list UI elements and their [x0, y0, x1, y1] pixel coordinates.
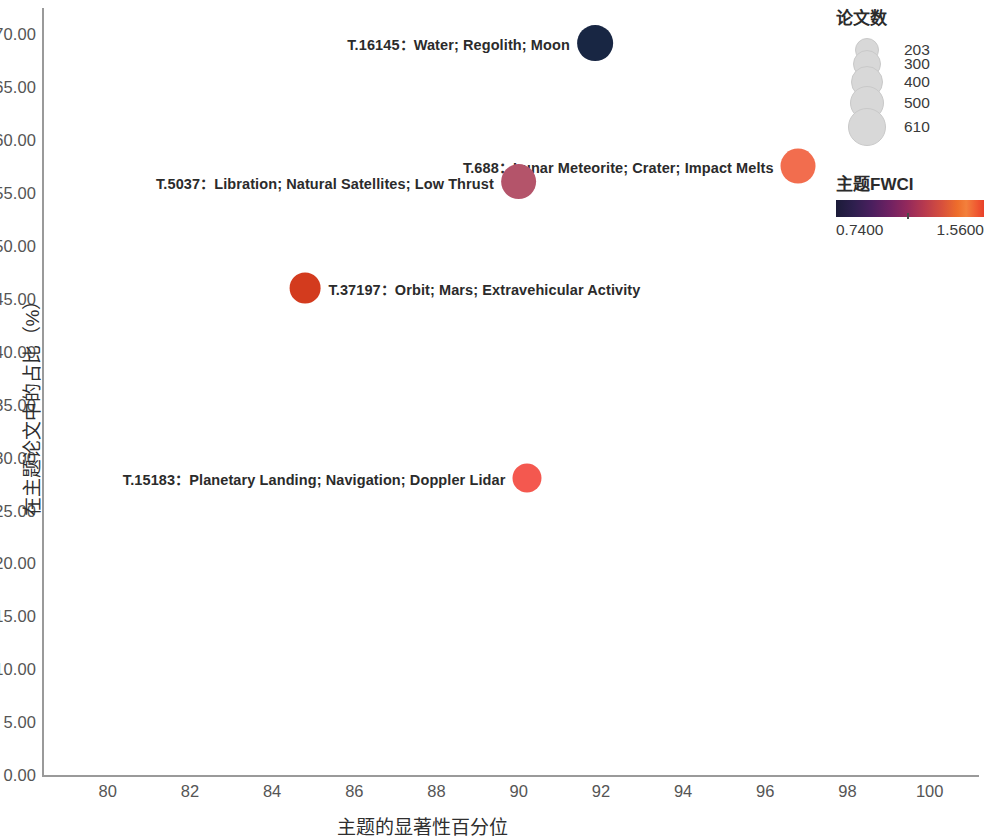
legend-panel: 论文数 203300400500610 主题FWCI 0.7400 1.5600: [836, 4, 988, 239]
size-legend-swatch: [848, 108, 886, 146]
x-tick-label: 96: [756, 782, 774, 801]
y-tick-label: 0.00: [0, 766, 36, 785]
x-tick-label: 86: [345, 782, 363, 801]
point-label-t-16145: T.16145：Water; Regolith; Moon: [347, 32, 570, 53]
size-legend-swatch-wrap: [836, 108, 898, 146]
y-tick-label: 10.00: [0, 660, 36, 679]
color-gradient-bar: [836, 200, 984, 217]
y-tick-label: 55.00: [0, 184, 36, 203]
y-tick-label: 60.00: [0, 131, 36, 150]
y-tick-label: 65.00: [0, 78, 36, 97]
x-tick-label: 88: [427, 782, 445, 801]
x-tick-label: 100: [916, 782, 944, 801]
point-label-t-15183: T.15183：Planetary Landing; Navigation; D…: [123, 467, 506, 488]
color-legend: 主题FWCI 0.7400 1.5600: [836, 170, 988, 239]
bubble-t-16145[interactable]: [577, 25, 613, 61]
x-tick-label: 90: [510, 782, 528, 801]
bubble-t-5037[interactable]: [501, 164, 537, 200]
x-tick-label: 94: [674, 782, 692, 801]
color-legend-max: 1.5600: [937, 221, 984, 239]
x-tick-label: 84: [263, 782, 281, 801]
x-axis-title: 主题的显著性百分位: [42, 812, 802, 839]
size-legend-title: 论文数: [836, 4, 988, 29]
size-legend-value: 610: [904, 118, 930, 136]
color-gradient-tick: [907, 213, 909, 219]
x-tick-label: 82: [181, 782, 199, 801]
y-tick-label: 70.00: [0, 25, 36, 44]
color-legend-scale: 0.7400 1.5600: [836, 221, 984, 239]
y-tick-label: 5.00: [0, 713, 36, 732]
x-tick-label: 92: [592, 782, 610, 801]
size-legend-rows: 203300400500610: [836, 32, 988, 154]
color-legend-min: 0.7400: [836, 221, 883, 239]
point-label-t-37197: T.37197：Orbit; Mars; Extravehicular Acti…: [328, 278, 640, 299]
bubble-chart: 0.005.0010.0015.0020.0025.0030.0035.0040…: [0, 0, 991, 839]
y-tick-label: 15.00: [0, 607, 36, 626]
x-axis-line: [42, 775, 979, 777]
bubble-t-37197[interactable]: [290, 273, 321, 304]
size-legend-row: 610: [836, 108, 988, 146]
x-tick-label: 98: [838, 782, 856, 801]
bubble-t-15183[interactable]: [512, 463, 541, 492]
x-tick-label: 80: [99, 782, 117, 801]
color-legend-title: 主题FWCI: [836, 170, 988, 195]
bubble-t-688[interactable]: [781, 148, 816, 183]
y-axis-title: 在主题论文中的占比（%）: [17, 204, 44, 604]
point-label-t-5037: T.5037：Libration; Natural Satellites; Lo…: [156, 171, 494, 192]
